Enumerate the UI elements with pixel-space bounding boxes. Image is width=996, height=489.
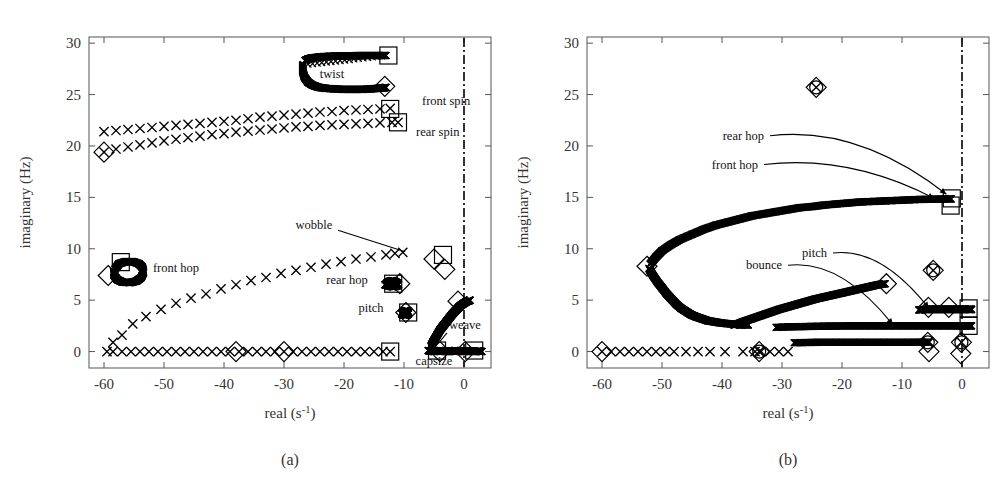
x-tick-label: -60: [592, 376, 612, 392]
annotation-leader: [338, 230, 405, 252]
panel-a-svg: -60-50-40-30-20-100051015202530real (s-1…: [0, 0, 498, 489]
y-axis-title: imaginary (Hz): [515, 156, 532, 248]
panel-caption: (a): [281, 451, 299, 469]
y-tick-label: 20: [564, 138, 579, 154]
y-tick-label: 25: [66, 87, 81, 103]
x-tick-label: -20: [832, 376, 852, 392]
panel-b: -60-50-40-30-20-100051015202530real (s-1…: [498, 0, 996, 489]
x-tick-label: -60: [94, 376, 114, 392]
annotation-front-hop: front hop: [712, 158, 758, 172]
figure-root: -60-50-40-30-20-100051015202530real (s-1…: [0, 0, 996, 489]
panel-a-canvas: -60-50-40-30-20-100051015202530real (s-1…: [0, 0, 498, 489]
annotation-front-spin: front spin: [422, 94, 471, 108]
x-tick-label: -50: [652, 376, 672, 392]
y-tick-label: 30: [66, 35, 81, 51]
annotation-front-hop: front hop: [153, 261, 199, 275]
annotation-bounce: bounce: [746, 258, 783, 272]
x-tick-label: -40: [712, 376, 732, 392]
panel-b-svg: -60-50-40-30-20-100051015202530real (s-1…: [498, 0, 996, 489]
x-tick-label: -10: [394, 376, 414, 392]
y-tick-label: 5: [572, 292, 580, 308]
annotation-capsize: capsize: [416, 354, 453, 368]
annotation-pitch: pitch: [802, 246, 828, 260]
x-tick-label: -50: [154, 376, 174, 392]
y-tick-label: 20: [66, 138, 81, 154]
annotation-leader: [770, 134, 946, 194]
x-tick-label: -40: [214, 376, 234, 392]
panel-caption: (b): [779, 451, 798, 469]
x-tick-label: 0: [958, 376, 966, 392]
x-tick-label: -30: [274, 376, 294, 392]
annotation-twist: twist: [320, 67, 345, 81]
y-tick-label: 0: [74, 344, 82, 360]
annotation-rear-hop: rear hop: [723, 129, 764, 143]
y-tick-label: 15: [66, 189, 81, 205]
annotation-wobble: wobble: [296, 218, 333, 232]
y-tick-label: 5: [74, 292, 82, 308]
annotation-pitch: pitch: [359, 301, 385, 315]
y-tick-label: 10: [564, 241, 579, 257]
x-axis-title: real (s-1): [265, 404, 316, 422]
x-tick-label: -10: [892, 376, 912, 392]
y-tick-label: 10: [66, 241, 81, 257]
panel-b-canvas: -60-50-40-30-20-100051015202530real (s-1…: [498, 0, 996, 489]
data-layer: [592, 77, 977, 363]
x-axis-title: real (s-1): [763, 404, 814, 422]
y-tick-label: 0: [572, 344, 580, 360]
annotation-arrowhead: [940, 188, 947, 194]
y-tick-label: 25: [564, 87, 579, 103]
panel-a: -60-50-40-30-20-100051015202530real (s-1…: [0, 0, 498, 489]
y-tick-label: 15: [564, 189, 579, 205]
x-tick-label: 0: [460, 376, 468, 392]
x-tick-label: -30: [772, 376, 792, 392]
annotation-rear-hop: rear hop: [326, 273, 367, 287]
plot-frame: [89, 37, 491, 368]
y-tick-label: 30: [564, 35, 579, 51]
annotation-weave: weave: [449, 318, 481, 332]
annotation-rear-spin: rear spin: [416, 125, 460, 139]
x-tick-label: -20: [334, 376, 354, 392]
marker-diamond: [226, 342, 246, 362]
y-axis-title: imaginary (Hz): [17, 156, 34, 248]
